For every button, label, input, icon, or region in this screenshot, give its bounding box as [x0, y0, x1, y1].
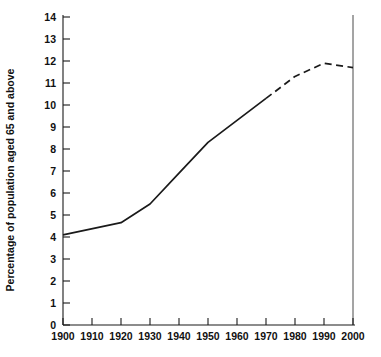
y-tick-label: 6 [50, 187, 56, 199]
x-tick-marks [63, 318, 353, 325]
y-tick-label: 1 [50, 297, 56, 309]
series-observed-path [63, 98, 266, 234]
line-chart: 01234567891011121314 1900191019201930194… [0, 0, 381, 357]
x-tick-label: 2000 [341, 330, 365, 342]
x-tick-label: 1940 [167, 330, 191, 342]
y-tick-label: 0 [50, 319, 56, 331]
x-tick-label: 1960 [225, 330, 249, 342]
y-tick-label: 10 [44, 99, 56, 111]
y-tick-marks [63, 17, 70, 325]
x-tick-label: 1950 [196, 330, 220, 342]
x-tick-label: 1910 [80, 330, 104, 342]
y-tick-label: 14 [44, 11, 56, 23]
y-tick-label: 13 [44, 33, 56, 45]
y-tick-label: 5 [50, 209, 56, 221]
y-tick-label: 12 [44, 55, 56, 67]
x-tick-label: 1930 [138, 330, 162, 342]
y-tick-label: 11 [45, 77, 56, 89]
y-tick-label: 2 [50, 275, 56, 287]
series-projected-path [266, 63, 353, 98]
chart-container: 01234567891011121314 1900191019201930194… [0, 0, 381, 357]
x-tick-label: 1920 [109, 330, 133, 342]
y-tick-label: 8 [50, 143, 56, 155]
plot-area [63, 15, 355, 325]
x-tick-labels: 1900191019201930194019501960197019801990… [51, 330, 365, 342]
x-tick-label: 1990 [312, 330, 336, 342]
x-tick-label: 1900 [51, 330, 75, 342]
y-tick-labels: 01234567891011121314 [44, 11, 56, 331]
y-tick-label: 4 [50, 231, 56, 243]
x-tick-label: 1970 [254, 330, 278, 342]
y-tick-label: 7 [50, 165, 56, 177]
x-tick-label: 1980 [283, 330, 307, 342]
y-tick-label: 9 [50, 121, 56, 133]
y-tick-label: 3 [50, 253, 56, 265]
y-axis-title: Percentage of population aged 65 and abo… [4, 68, 16, 291]
